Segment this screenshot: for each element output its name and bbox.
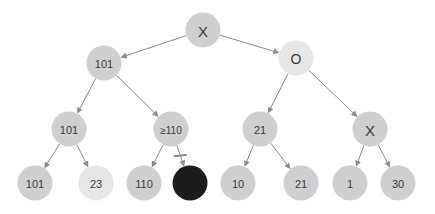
tree-node: O bbox=[279, 41, 314, 76]
prune-cut-icon bbox=[174, 155, 187, 156]
tree-edge bbox=[309, 70, 357, 116]
tree-node: 110 bbox=[127, 166, 162, 201]
node-label: 10 bbox=[232, 178, 244, 190]
node-label: O bbox=[291, 51, 302, 67]
node-circle bbox=[173, 166, 208, 201]
tree-edge bbox=[77, 145, 88, 167]
tree-node: 21 bbox=[284, 166, 319, 201]
tree-edge bbox=[268, 74, 288, 113]
tree-edge bbox=[122, 36, 187, 58]
tree-node: 30 bbox=[381, 166, 416, 201]
tree-edge bbox=[78, 78, 96, 112]
tree-node: 101 bbox=[87, 46, 122, 81]
node-label: X bbox=[365, 122, 375, 139]
node-label: 101 bbox=[60, 124, 78, 136]
node-label: 101 bbox=[26, 178, 44, 190]
tree-node: X bbox=[186, 13, 221, 48]
node-label: 21 bbox=[295, 178, 307, 190]
tree-node: X bbox=[353, 112, 388, 147]
tree-node: 21 bbox=[243, 112, 278, 147]
game-tree-diagram: X101O101≥11021X101231101021130 bbox=[0, 0, 435, 214]
tree-node: 101 bbox=[52, 112, 87, 147]
tree-edge bbox=[356, 145, 363, 165]
node-label: 110 bbox=[135, 178, 153, 190]
node-label: ≥110 bbox=[160, 125, 182, 136]
node-label: 101 bbox=[95, 58, 113, 70]
pruned-node bbox=[173, 166, 208, 201]
node-label: 30 bbox=[392, 178, 404, 190]
tree-node: 1 bbox=[333, 166, 368, 201]
node-label: 21 bbox=[254, 124, 266, 136]
tree-node: 10 bbox=[221, 166, 256, 201]
node-label: X bbox=[198, 23, 208, 40]
tree-node: 101 bbox=[18, 166, 53, 201]
node-label: 1 bbox=[347, 178, 353, 190]
node-label: 23 bbox=[90, 178, 102, 190]
tree-node: ≥110 bbox=[154, 112, 189, 147]
tree-edge bbox=[271, 143, 290, 168]
tree-edge bbox=[45, 144, 60, 168]
tree-nodes: X101O101≥11021X101231101021130 bbox=[18, 13, 416, 201]
tree-edge bbox=[245, 145, 253, 166]
tree-edge bbox=[152, 145, 163, 167]
tree-node: 23 bbox=[79, 166, 114, 201]
tree-edge bbox=[378, 145, 389, 167]
tree-edge bbox=[220, 35, 279, 53]
tree-edge bbox=[116, 75, 157, 116]
